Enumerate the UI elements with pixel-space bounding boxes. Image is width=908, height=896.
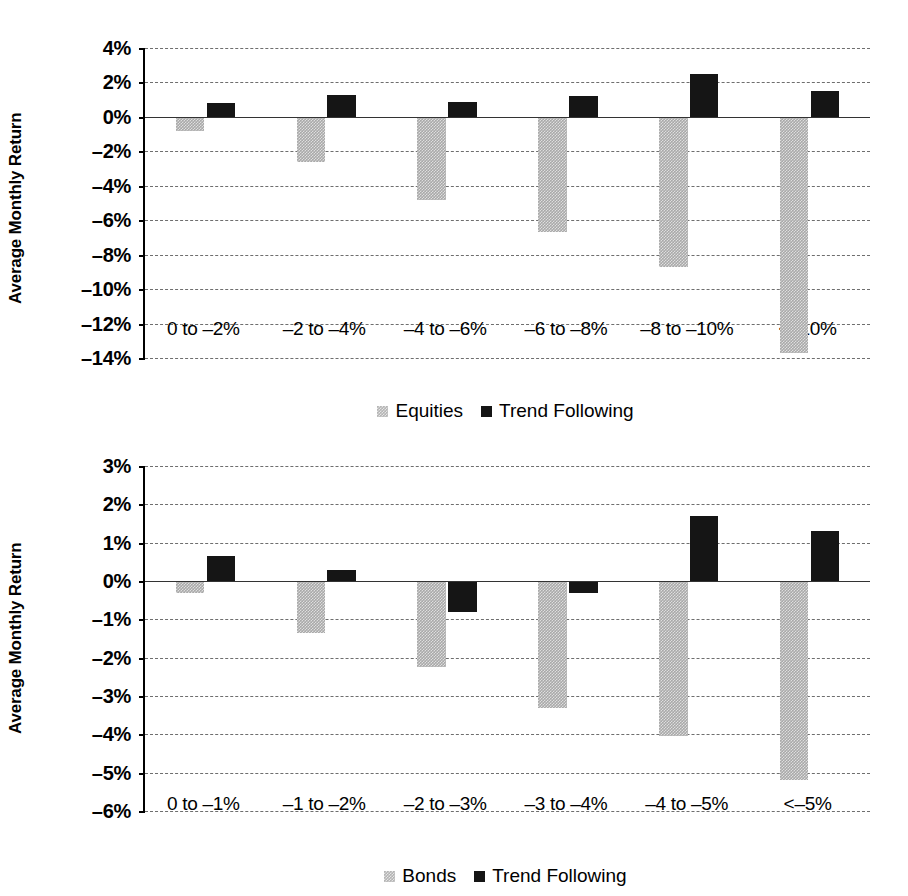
bar-trend-following — [207, 556, 235, 581]
bar-trend-following — [327, 95, 355, 117]
legend-label: Equities — [395, 400, 463, 422]
bar-trend-following — [569, 581, 597, 593]
chart-panel-bonds: Average Monthly Return 3%2%1%0%–1%–2%–3%… — [0, 440, 908, 896]
bar-bonds — [417, 581, 445, 667]
bar-group — [145, 48, 266, 358]
zero-baseline — [145, 581, 870, 582]
chart-panel-equities: Average Monthly Return 4%2%0%–2%–4%–6%–8… — [0, 0, 908, 440]
bar-equities — [417, 117, 445, 200]
plot-area-wrapper: 3%2%1%0%–1%–2%–3%–4%–5%–6% — [143, 466, 868, 811]
bar-group — [628, 48, 749, 358]
legend-swatch-icon — [481, 406, 492, 417]
bar-trend-following — [811, 531, 839, 581]
bar-groups — [145, 48, 870, 358]
bar-group — [749, 466, 870, 811]
y-axis-tick-label: –1% — [92, 608, 131, 631]
legend-label: Trend Following — [499, 400, 633, 422]
bar-equities — [538, 117, 566, 232]
bar-trend-following — [690, 74, 718, 117]
bar-groups — [145, 466, 870, 811]
y-axis-tick-labels: 3%2%1%0%–1%–2%–3%–4%–5%–6% — [51, 466, 135, 811]
y-axis-tick-label: –3% — [92, 685, 131, 708]
legend-item: Trend Following — [481, 400, 633, 422]
bar-group — [145, 466, 266, 811]
legend-item: Bonds — [384, 865, 456, 887]
y-axis-tick-label: –4% — [92, 174, 131, 197]
bar-group — [628, 466, 749, 811]
y-axis-title: Average Monthly Return — [6, 58, 36, 358]
legend-label: Bonds — [402, 865, 456, 887]
bar-trend-following — [569, 96, 597, 117]
legend-swatch-icon — [377, 406, 388, 417]
bar-bonds — [176, 581, 204, 593]
y-axis-tick-label: 0% — [103, 570, 131, 593]
bar-equities — [659, 117, 687, 267]
legend-swatch-icon — [474, 871, 485, 882]
y-axis-tick-label: 4% — [103, 37, 131, 60]
bar-equities — [780, 117, 808, 353]
legend-swatch-icon — [384, 871, 395, 882]
bar-trend-following — [690, 516, 718, 581]
y-axis-tick — [139, 358, 145, 360]
y-axis-tick-label: –10% — [81, 278, 131, 301]
chart-legend: BondsTrend Following — [143, 865, 868, 887]
gridline — [145, 358, 870, 359]
y-axis-tick-label: 2% — [103, 493, 131, 516]
chart-page: Average Monthly Return 4%2%0%–2%–4%–6%–8… — [0, 0, 908, 896]
bar-group — [387, 466, 508, 811]
bar-equities — [297, 117, 325, 162]
y-axis-tick-label: –2% — [92, 140, 131, 163]
y-axis-tick-label: –6% — [92, 800, 131, 823]
bar-group — [266, 466, 387, 811]
y-axis-tick-label: –2% — [92, 646, 131, 669]
bar-group — [508, 48, 629, 358]
y-axis-tick-label: –8% — [92, 243, 131, 266]
bar-equities — [176, 117, 204, 131]
plot-area — [143, 466, 870, 811]
y-axis-tick-labels: 4%2%0%–2%–4%–6%–8%–10%–12%–14% — [51, 48, 135, 358]
y-axis-tick-label: 2% — [103, 71, 131, 94]
zero-baseline — [145, 117, 870, 118]
y-axis-tick-label: –5% — [92, 761, 131, 784]
y-axis-title: Average Monthly Return — [6, 468, 36, 808]
bar-group — [508, 466, 629, 811]
y-axis-tick-label: 0% — [103, 105, 131, 128]
bar-group — [749, 48, 870, 358]
bar-bonds — [297, 581, 325, 633]
legend-item: Equities — [377, 400, 463, 422]
bar-trend-following — [207, 103, 235, 117]
y-axis-tick-label: 3% — [103, 455, 131, 478]
legend-item: Trend Following — [474, 865, 626, 887]
bar-bonds — [659, 581, 687, 736]
legend-label: Trend Following — [492, 865, 626, 887]
plot-area — [143, 48, 870, 358]
bar-trend-following — [448, 102, 476, 117]
bar-group — [266, 48, 387, 358]
y-axis-tick-label: 1% — [103, 531, 131, 554]
plot-area-wrapper: 4%2%0%–2%–4%–6%–8%–10%–12%–14% — [143, 48, 868, 358]
chart-legend: EquitiesTrend Following — [143, 400, 868, 422]
y-axis-tick-label: –6% — [92, 209, 131, 232]
bar-group — [387, 48, 508, 358]
y-axis-tick-label: –4% — [92, 723, 131, 746]
bar-bonds — [538, 581, 566, 708]
bar-trend-following — [327, 570, 355, 582]
y-axis-tick-label: –12% — [81, 312, 131, 335]
bar-bonds — [780, 581, 808, 780]
bar-trend-following — [811, 91, 839, 117]
y-axis-tick-label: –14% — [81, 347, 131, 370]
bar-trend-following — [448, 581, 476, 612]
